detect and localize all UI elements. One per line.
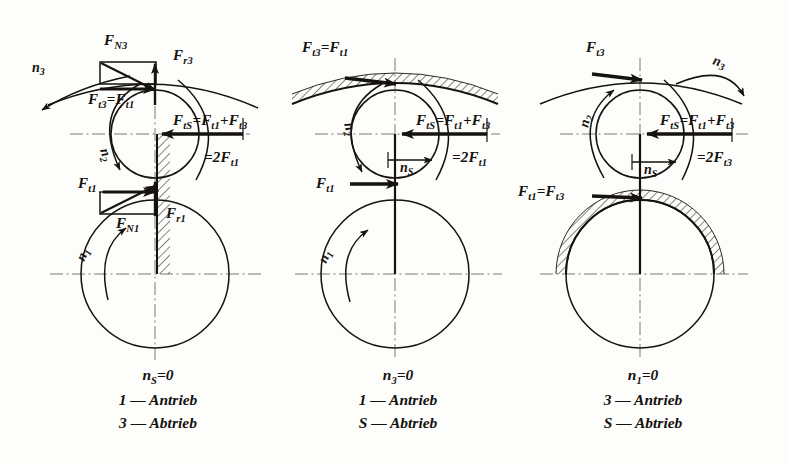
label-n1-p2: n1 (315, 247, 336, 266)
caption-line3-p2: S — Abtrieb (359, 414, 438, 431)
label-FtS-p1: FtS=Ft1+Ft3 (172, 112, 247, 131)
label-FtS-value-p3: =2Ft3 (697, 149, 732, 168)
label-n2-p3: n2 (576, 113, 595, 129)
force-arrow-Ft1-p3 (592, 196, 642, 198)
label-Ft3-eq-Ft1-p1: Ft3=Ft1 (87, 91, 134, 110)
centre-lines-p2 (295, 58, 502, 360)
label-n2-p2: n2 (339, 121, 359, 138)
label-n1-p1: n1 (73, 245, 94, 264)
label-Ft1-p1: Ft1 (77, 175, 97, 194)
label-FN3-p1: FN3 (103, 32, 127, 51)
panel-1: FN3 Fr3 Ft3=Ft1 n3 n2 FtS=Ft1+Ft3 =2Ft1 … (32, 32, 262, 431)
label-n3-p1: n3 (32, 60, 45, 77)
rotation-arrow-n1-p1 (105, 228, 126, 300)
caption-line3-p3: S — Abtrieb (604, 414, 683, 431)
panel-2: Ft3=Ft1 n2 FtS=Ft1+Ft3 =2Ft1 nS Ft1 n1 n… (292, 39, 502, 431)
label-nS-p3: nS (644, 162, 658, 179)
label-FtS-value-p2: =2Ft1 (452, 149, 487, 168)
label-Ft1-p2: Ft1 (315, 175, 335, 194)
label-FtS-value-p1: =2Ft1 (204, 149, 239, 168)
figure-canvas: FN3 Fr3 Ft3=Ft1 n3 n2 FtS=Ft1+Ft3 =2Ft1 … (0, 0, 789, 465)
label-FN1-p1: FN1 (115, 215, 139, 234)
caption-condition-p1: nS=0 (142, 366, 173, 386)
caption-condition-p3: n1=0 (628, 366, 659, 386)
rotation-arrow-n1-p2 (346, 230, 368, 302)
label-Fr3-p1: Fr3 (172, 47, 193, 66)
caption-line2-p1: 1 — Antrieb (119, 391, 198, 408)
diagram-svg: FN3 Fr3 Ft3=Ft1 n3 n2 FtS=Ft1+Ft3 =2Ft1 … (0, 0, 789, 465)
label-FtS-p3: FtS=Ft1+Ft3 (659, 112, 734, 131)
force-block-bottom-p1 (100, 182, 156, 216)
label-FtS-p2: FtS=Ft1+Ft3 (415, 112, 490, 131)
caption-condition-p2: n3=0 (383, 366, 414, 386)
label-Ft3-p3: Ft3 (585, 39, 605, 58)
carrier-arm-hatched-p1 (157, 134, 170, 274)
label-Ft3-eq-Ft1-p2: Ft3=Ft1 (301, 39, 348, 58)
caption-line2-p3: 3 — Antrieb (603, 391, 683, 408)
caption-line3-p1: 3 — Abtrieb (118, 414, 197, 431)
centre-lines-p3 (540, 58, 748, 360)
label-n3-p3: n3 (710, 53, 727, 73)
label-n2-p1: n2 (95, 146, 115, 163)
panel-3: Ft3 n3 n2 FtS=Ft1+Ft3 =2Ft3 nS Ft1=Ft3 n… (517, 39, 748, 431)
label-Ft1-eq-Ft3-p3: Ft1=Ft3 (517, 183, 564, 202)
force-arrow-Ft3-p3 (592, 74, 642, 80)
caption-line2-p2: 1 — Antrieb (359, 391, 438, 408)
label-nS-p2: nS (400, 160, 414, 177)
ring-gear-arc-p3 (540, 83, 742, 104)
